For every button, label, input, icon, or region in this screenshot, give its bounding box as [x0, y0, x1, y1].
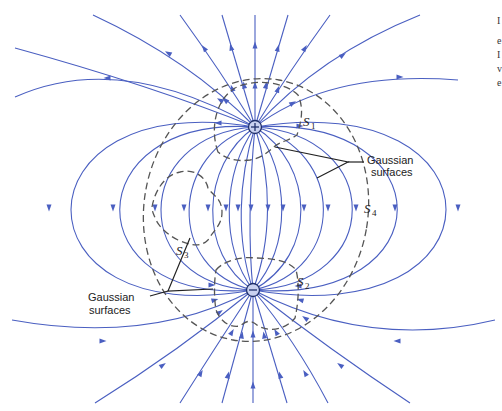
surface-label-s1: S 1: [303, 114, 316, 131]
svg-text:I: I: [497, 49, 500, 60]
surface-label-s4: S 4: [364, 201, 377, 218]
gaussian-surfaces-callout-upper: Gaussian surfaces: [367, 154, 413, 178]
negative-charge: [247, 284, 260, 297]
gaussian-surfaces: [123, 61, 389, 360]
svg-text:2: 2: [305, 281, 310, 291]
svg-text:surfaces: surfaces: [371, 166, 413, 178]
svg-text:3: 3: [184, 250, 189, 260]
svg-text:e: e: [497, 77, 502, 88]
positive-charge: [249, 121, 262, 134]
gaussian-surface-s4: [123, 61, 389, 360]
svg-text:e: e: [497, 35, 502, 46]
svg-text:S: S: [303, 114, 310, 129]
svg-text:v: v: [497, 63, 502, 74]
gaussian-surfaces-callout-lower: Gaussian surfaces: [88, 291, 134, 316]
svg-text:Gaussian: Gaussian: [88, 291, 134, 303]
svg-text:Gaussian: Gaussian: [367, 154, 413, 166]
svg-text:4: 4: [372, 208, 377, 218]
field-lines-connecting: [71, 122, 446, 295]
dipole-field-diagram: S 1 S 2 S 3 S 4 Gaussian surfaces Gaussi…: [0, 0, 502, 411]
svg-text:S: S: [297, 274, 304, 289]
field-arrows: [47, 42, 461, 389]
truncated-caption: I e I v e: [497, 15, 502, 88]
leader-lines: [150, 147, 364, 296]
field-lines-upper: [15, 15, 458, 127]
svg-text:S: S: [364, 201, 371, 216]
svg-text:I: I: [497, 15, 500, 26]
gaussian-surface-s3: [152, 171, 222, 245]
svg-text:1: 1: [311, 121, 316, 131]
svg-text:S: S: [176, 243, 183, 258]
svg-text:surfaces: surfaces: [89, 304, 131, 316]
